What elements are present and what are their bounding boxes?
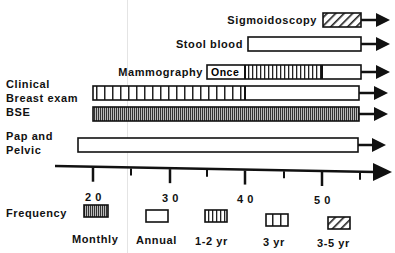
segment-monthly [93, 107, 359, 121]
row-label-mammography: Mammography [118, 66, 203, 78]
legend-label-annual: Annual [136, 234, 177, 246]
legend-swatch-monthly [84, 205, 108, 217]
legend-label-hatch: 3-5 yr [317, 237, 350, 249]
arrow-icon [376, 13, 390, 27]
arrow-icon [376, 37, 390, 51]
legend [84, 205, 350, 229]
arrow-icon [372, 138, 386, 152]
row-clinical-breast-exam [93, 86, 388, 100]
segment-annual [322, 65, 361, 79]
segment-annual [245, 86, 359, 100]
segment-oneTwo [245, 65, 322, 79]
axis-tick-label: 4 0 [237, 193, 254, 205]
row-label-bse: BSE [6, 106, 30, 118]
legend-label-three: 3 yr [263, 236, 285, 248]
legend-swatch-hatch [328, 217, 350, 229]
row-label-clinical-breast-exam: Clinical [6, 78, 50, 90]
row-bse [93, 107, 388, 121]
legend-swatch-three [266, 214, 288, 226]
row-label-sigmoidoscopy: Sigmoidoscopy [227, 14, 317, 26]
arrow-icon [374, 107, 388, 121]
legend-swatch-annual [146, 210, 168, 222]
legend-label-oneTwo: 1-2 yr [195, 235, 228, 247]
legend-label-monthly: Monthly [72, 233, 118, 245]
row-label-clinical-breast-exam: Breast exam [6, 92, 78, 104]
segment-annual [248, 37, 361, 51]
axis-tick-label: 3 0 [162, 192, 179, 204]
legend-title: Frequency [6, 207, 67, 219]
row-sigmoidoscopy [323, 13, 390, 27]
axis-arrow-icon [373, 163, 392, 181]
row-mammography: Once [207, 65, 390, 79]
row-label-pap-and-pelvic: Pelvic [6, 144, 41, 156]
legend-swatch-oneTwo [205, 210, 227, 222]
svg-text:Once: Once [211, 66, 239, 78]
row-label-stool-blood: Stool blood [176, 38, 243, 50]
axis-tick-label: 2 0 [85, 191, 102, 203]
row-pap-and-pelvic [78, 138, 386, 152]
arrow-icon [376, 65, 390, 79]
arrow-icon [374, 86, 388, 100]
axis-tick-label: 5 0 [314, 194, 331, 206]
age-axis [55, 163, 392, 186]
row-label-pap-and-pelvic: Pap and [6, 130, 53, 142]
segment-annual [78, 138, 358, 152]
segment-hatch [323, 13, 361, 27]
segment-three [93, 86, 245, 100]
row-stool-blood [248, 37, 390, 51]
